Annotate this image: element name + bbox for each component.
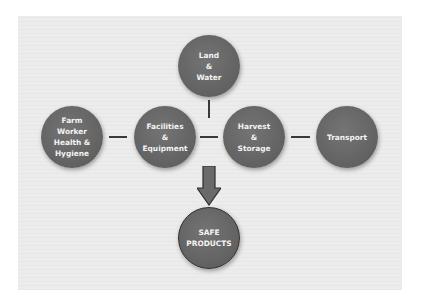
node-land-water: Land & Water (178, 35, 240, 97)
node-transport: Transport (316, 106, 378, 168)
node-label: Farm Worker Health & Hygiene (54, 115, 91, 159)
node-farm-worker-health-hygiene: Farm Worker Health & Hygiene (41, 106, 103, 168)
node-label: Harvest & Storage (238, 121, 271, 154)
connector-facilities-harvest (200, 136, 218, 138)
node-label: Transport (327, 132, 367, 143)
node-safe-products: SAFE PRODUCTS (178, 207, 240, 269)
connector-harvest-transport (291, 136, 310, 138)
node-label: SAFE PRODUCTS (186, 227, 231, 249)
connector-farm-facilities (109, 136, 127, 138)
node-harvest-storage: Harvest & Storage (223, 106, 285, 168)
connector-land-to-junction (208, 100, 210, 118)
node-label: Land & Water (196, 50, 221, 83)
node-facilities-equipment: Facilities & Equipment (134, 106, 196, 168)
node-label: Facilities & Equipment (143, 121, 188, 154)
down-arrow-icon (197, 166, 221, 206)
